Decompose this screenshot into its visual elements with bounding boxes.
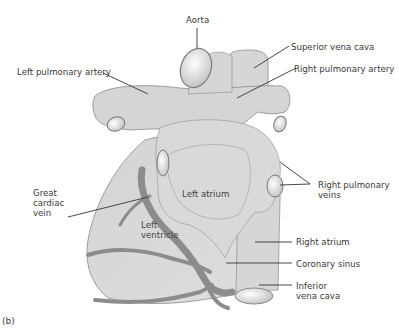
label-aorta: Aorta — [186, 15, 209, 25]
label-great-cardiac-vein: Great cardiac vein — [33, 188, 64, 218]
panel-label: (b) — [2, 316, 15, 326]
label-right-pulmonary-veins: Right pulmonary veins — [318, 180, 390, 200]
label-superior-vena-cava: Superior vena cava — [291, 42, 374, 52]
inferior-vena-cava-opening — [235, 288, 273, 304]
label-left-ventricle: Left ventricle — [141, 220, 179, 240]
label-coronary-sinus: Coronary sinus — [296, 259, 360, 269]
label-right-atrium: Right atrium — [296, 237, 350, 247]
label-inferior-vena-cava: Inferior vena cava — [296, 281, 340, 301]
label-left-atrium: Left atrium — [182, 189, 229, 199]
label-right-pulmonary-artery: Right pulmonary artery — [294, 64, 394, 74]
label-left-pulmonary-artery: Left pulmonary artery — [17, 67, 111, 77]
